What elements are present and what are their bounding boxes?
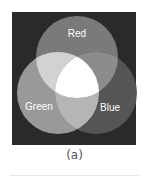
label-blue: Blue <box>100 102 120 113</box>
label-green: Green <box>25 101 53 112</box>
label-red: Red <box>68 28 86 39</box>
figure-caption: (a) <box>0 148 149 162</box>
divider <box>10 175 139 176</box>
